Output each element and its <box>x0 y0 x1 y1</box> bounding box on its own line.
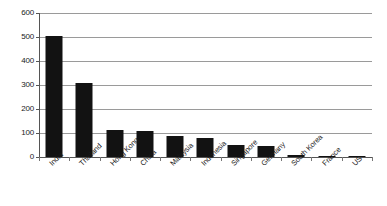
y-axis-tick <box>36 133 39 134</box>
x-axis-category-label: Hong Kong <box>109 136 141 168</box>
x-axis-tick <box>39 157 40 161</box>
x-axis-category-label: South Korea <box>290 133 324 167</box>
x-axis-category-label: Indonesia <box>200 140 228 168</box>
x-axis-tick <box>69 157 70 161</box>
x-axis-category-label: India <box>48 151 65 168</box>
x-axis-tick <box>281 157 282 161</box>
x-axis-tick <box>160 157 161 161</box>
x-axis-tick <box>130 157 131 161</box>
x-axis-category-label: US <box>351 155 364 168</box>
bar-chart: 600 500 400 300 200 100 0 IndiaThailandH… <box>0 0 387 206</box>
x-axis-category-label: Malaysia <box>169 142 195 168</box>
y-axis-tick <box>36 85 39 86</box>
y-axis-tick <box>36 13 39 14</box>
x-axis-category-label: Germany <box>260 141 287 168</box>
x-axis-tick <box>221 157 222 161</box>
x-axis-category-label: France <box>321 146 343 168</box>
x-axis-tick <box>100 157 101 161</box>
x-axis-tick <box>190 157 191 161</box>
x-axis-category-label: Singapore <box>230 138 259 167</box>
x-axis-category-label: Thailand <box>78 142 103 167</box>
x-axis-category-label: China <box>139 148 158 167</box>
y-axis-tick <box>36 61 39 62</box>
x-axis-tick <box>311 157 312 161</box>
x-axis-tick <box>342 157 343 161</box>
y-axis-tick <box>36 37 39 38</box>
x-axis-tick <box>372 157 373 161</box>
y-axis-tick <box>36 109 39 110</box>
x-axis-labels: IndiaThailandHong KongChinaMalaysiaIndon… <box>0 0 387 206</box>
x-axis-tick <box>251 157 252 161</box>
